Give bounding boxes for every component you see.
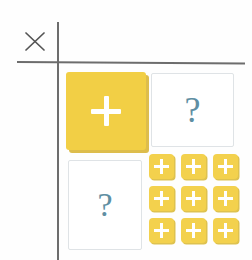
product-tile[interactable] [181,218,206,243]
unknown-factor-card[interactable]: ? [68,160,142,250]
multiplier-card-inner: ? [152,74,233,146]
product-tile[interactable] [213,186,238,211]
unknown-factor-card-inner: ? [69,161,141,249]
plus-icon [186,159,201,174]
multiplication-sign-icon [21,27,49,55]
question-mark: ? [97,188,112,222]
plus-icon [186,223,201,238]
product-tile[interactable] [213,154,238,179]
diagram-canvas: ? ? [0,0,252,260]
multiplicand-card[interactable] [66,72,146,150]
plus-icon [218,223,233,238]
horizontal-axis-line [17,61,245,64]
plus-icon [186,191,201,206]
product-tile-grid [149,154,238,243]
vertical-axis-line [57,22,59,260]
plus-icon [91,96,121,126]
multiplier-card[interactable]: ? [151,73,234,147]
product-tile[interactable] [181,154,206,179]
plus-icon [154,191,169,206]
plus-icon [218,159,233,174]
product-tile[interactable] [149,186,174,211]
plus-icon [154,223,169,238]
question-mark: ? [185,92,201,128]
product-tile[interactable] [149,154,174,179]
plus-icon [154,159,169,174]
multiplicand-card-inner [66,72,146,150]
product-tile[interactable] [213,218,238,243]
product-tile[interactable] [149,218,174,243]
plus-icon [218,191,233,206]
product-tile[interactable] [181,186,206,211]
